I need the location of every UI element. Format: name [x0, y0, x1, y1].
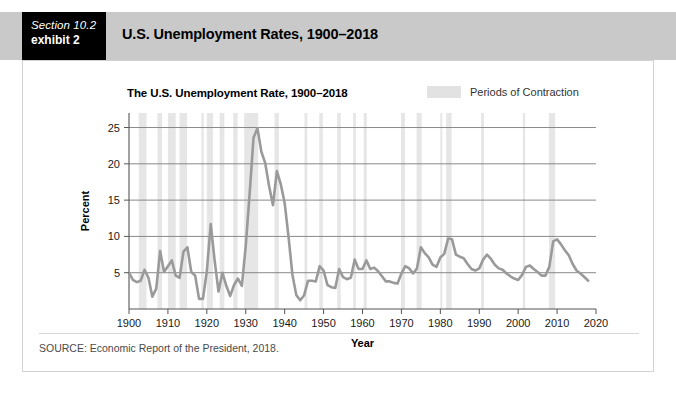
y-axis-tick-labels: 510152025 [108, 122, 120, 279]
x-axis-tick-label: 1900 [117, 317, 141, 329]
x-axis-tick-label: 2020 [584, 317, 608, 329]
y-axis-title: Percent [79, 190, 91, 231]
contraction-band [353, 113, 356, 309]
source-note: SOURCE: Economic Report of the President… [39, 342, 279, 354]
x-axis-tick-label: 1930 [234, 317, 258, 329]
unemployment-rate-line [129, 128, 588, 300]
y-axis-tick-label: 10 [108, 230, 120, 242]
exhibit-header-bar: Section 10.2 exhibit 2 U.S. Unemployment… [0, 12, 676, 60]
contraction-band [319, 113, 323, 309]
x-axis-tick-label: 1920 [195, 317, 219, 329]
plot-frame [129, 113, 596, 309]
contraction-band [168, 113, 176, 309]
y-axis-ticks-group [124, 128, 129, 273]
x-axis-ticks-group [129, 309, 596, 314]
contraction-band [401, 113, 405, 309]
x-axis-tick-label: 1970 [389, 317, 413, 329]
unemployment-line-chart: 1900191019201930194019501960197019801990… [23, 61, 655, 373]
contraction-band [446, 113, 451, 309]
x-axis-title: Year [351, 337, 375, 349]
exhibit-title: U.S. Unemployment Rates, 1900–2018 [122, 26, 378, 42]
contraction-band [244, 113, 258, 309]
contraction-band [417, 113, 422, 309]
source-divider [39, 333, 639, 334]
exhibit-panel: The U.S. Unemployment Rate, 1900–2018 Pe… [22, 60, 654, 372]
x-axis-tick-label: 1980 [428, 317, 452, 329]
x-axis-tick-labels: 1900191019201930194019501960197019801990… [117, 317, 608, 329]
chart-plot-area: 1900191019201930194019501960197019801990… [23, 61, 655, 373]
y-axis-tick-label: 5 [114, 267, 120, 279]
gridlines-group [129, 128, 596, 273]
x-axis-tick-label: 1940 [272, 317, 296, 329]
y-axis-tick-label: 15 [108, 194, 120, 206]
contraction-band [523, 113, 525, 309]
y-axis-tick-label: 25 [108, 122, 120, 134]
x-axis-tick-label: 1960 [350, 317, 374, 329]
exhibit-section-label: Section 10.2 [31, 18, 106, 33]
x-axis-tick-label: 1990 [467, 317, 491, 329]
x-axis-tick-label: 1910 [156, 317, 180, 329]
x-axis-tick-label: 1950 [311, 317, 335, 329]
x-axis-tick-label: 2000 [506, 317, 530, 329]
contraction-band [207, 113, 213, 309]
contraction-band [201, 113, 203, 309]
contraction-band [305, 113, 308, 309]
contraction-band [364, 113, 367, 309]
contraction-band [549, 113, 555, 309]
exhibit-number-label: exhibit 2 [31, 33, 106, 48]
y-axis-tick-label: 20 [108, 158, 120, 170]
contraction-band [440, 113, 442, 309]
exhibit-tag: Section 10.2 exhibit 2 [22, 12, 106, 60]
x-axis-tick-label: 2010 [545, 317, 569, 329]
unemployment-line-series [129, 128, 588, 300]
contraction-band [180, 113, 187, 309]
contraction-band [481, 113, 484, 309]
contraction-band [275, 113, 279, 309]
